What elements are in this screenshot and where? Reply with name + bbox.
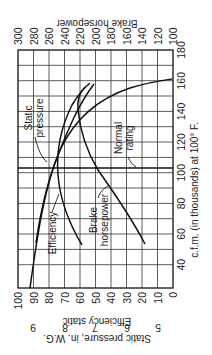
svg-text:5: 5 — [155, 322, 161, 334]
static-pressure-ticks: 9 8 7 6 5 — [30, 322, 161, 334]
svg-text:60: 60 — [74, 292, 86, 304]
svg-text:50: 50 — [90, 292, 102, 304]
static-pressure-leader — [35, 137, 47, 162]
fan-performance-chart: 300 280 260 240 220 200 180 160 140 120 … — [0, 0, 212, 355]
svg-text:100: 100 — [175, 164, 187, 182]
svg-text:300: 300 — [12, 27, 24, 45]
svg-text:180: 180 — [175, 41, 187, 59]
cfm-ticks: 180 160 140 120 100 80 60 40 — [175, 41, 187, 270]
grid — [18, 50, 173, 288]
svg-text:70: 70 — [59, 292, 71, 304]
normal-rating-leader — [128, 157, 136, 167]
svg-text:6: 6 — [124, 322, 130, 334]
static-pressure-annotation-2: pressure — [34, 98, 45, 137]
efficiency-annotation: Efficiency — [47, 212, 58, 255]
svg-text:10: 10 — [152, 292, 164, 304]
svg-text:0: 0 — [167, 292, 179, 298]
svg-text:160: 160 — [175, 72, 187, 90]
static-pressure-axis-label: Static pressure, in. W.G. — [43, 333, 151, 344]
svg-text:9: 9 — [30, 322, 36, 334]
static-pressure-annotation: Static — [23, 105, 34, 130]
svg-text:120: 120 — [152, 27, 164, 45]
brake-horsepower-annotation: Brake — [88, 207, 99, 234]
svg-text:140: 140 — [175, 102, 187, 120]
brake-horsepower-annotation-2: horsepower — [99, 193, 110, 246]
svg-text:20: 20 — [136, 292, 148, 304]
svg-text:60: 60 — [175, 228, 187, 240]
normal-rating-annotation: Normal — [113, 122, 124, 154]
svg-text:260: 260 — [43, 27, 55, 45]
svg-text:100: 100 — [12, 292, 24, 310]
svg-text:80: 80 — [175, 197, 187, 209]
normal-rating-annotation-2: rating — [124, 125, 135, 150]
svg-text:40: 40 — [105, 292, 117, 304]
static-pressure-curve — [30, 79, 172, 288]
svg-text:7: 7 — [92, 322, 98, 334]
svg-text:40: 40 — [175, 259, 187, 271]
svg-text:90: 90 — [28, 292, 40, 304]
efficiency-lower-curve — [58, 83, 90, 245]
brake-hp-axis-label: Brake horsepower — [56, 18, 138, 29]
svg-text:120: 120 — [175, 133, 187, 151]
svg-text:280: 280 — [28, 27, 40, 45]
svg-text:8: 8 — [62, 322, 68, 334]
efficiency-ticks: 100 90 80 70 60 50 40 30 20 10 0 — [12, 292, 179, 310]
svg-text:30: 30 — [121, 292, 133, 304]
cfm-axis-label: c.f.m. (in thousands) at 100° F. — [189, 122, 200, 258]
svg-text:80: 80 — [43, 292, 55, 304]
